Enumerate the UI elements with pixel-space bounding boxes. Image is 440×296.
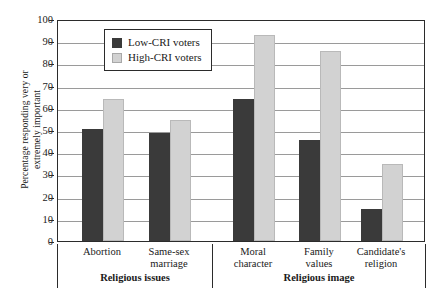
y-axis-ticks: 0102030405060708090100 [20,20,53,242]
bar-high-cri [320,51,341,241]
group-label: Religious issues [55,272,215,284]
y-tick-mark [49,64,54,65]
legend-label-low-cri: Low-CRI voters [128,36,200,49]
y-tick-mark [49,20,54,21]
y-tick-mark [49,242,54,243]
group-label: Religious image [239,272,399,284]
bar-chart: Percentage responding very or extremely … [0,0,440,296]
legend-item-high-cri: High-CRI voters [112,50,202,65]
x-category-label-line: religion [331,258,431,270]
legend-swatch-icon-low-cri [112,38,122,48]
x-category-label-line: Candidate's [331,246,431,258]
y-tick-mark [49,220,54,221]
bar-low-cri [233,99,254,241]
x-category-label: Candidate'sreligion [331,246,431,270]
legend-label-high-cri: High-CRI voters [128,51,202,64]
bar-high-cri [382,164,403,241]
y-tick-mark [49,131,54,132]
legend: Low-CRI voters High-CRI voters [104,29,212,71]
y-tick-mark [49,87,54,88]
bar-low-cri [361,209,382,241]
bar-high-cri [170,120,191,241]
gridline [58,88,424,89]
y-tick-mark [49,198,54,199]
bar-low-cri [149,133,170,241]
y-tick-mark [49,153,54,154]
y-tick-mark [49,42,54,43]
bar-high-cri [103,99,124,241]
y-tick-mark [49,109,54,110]
y-tick-mark [49,175,54,176]
group-separator [425,244,426,288]
bar-low-cri [299,140,320,241]
bar-high-cri [254,35,275,241]
legend-item-low-cri: Low-CRI voters [112,35,202,50]
legend-swatch-icon-high-cri [112,53,122,63]
bar-low-cri [82,129,103,241]
